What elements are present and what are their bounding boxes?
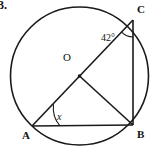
geometry-figure: 3. A B C O 42° x [0,0,158,155]
angle-label-x: x [57,112,61,122]
vertex-label-c: C [137,4,145,15]
center-point-marker [78,74,82,78]
angle-arc-c [122,32,133,37]
vertex-label-b: B [137,129,144,140]
vertex-label-a: A [22,130,30,141]
angle-label-42-degrees: 42° [101,33,115,43]
segment-ob [80,76,134,125]
problem-number: 3. [0,0,7,11]
center-label-o: O [63,52,71,63]
segment-ab [32,125,133,126]
